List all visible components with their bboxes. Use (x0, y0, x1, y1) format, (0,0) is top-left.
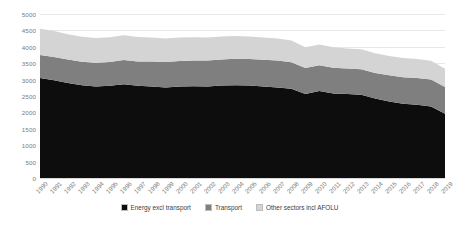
legend-label: Energy excl transport (131, 204, 191, 211)
x-axis-tick-label: 2017 (411, 180, 426, 195)
x-axis-tick-label: 2015 (383, 180, 398, 195)
x-axis-tick-label: 2010 (314, 180, 329, 195)
x-axis-tick-label: 2001 (188, 180, 203, 195)
x-axis-tick-label: 2011 (328, 180, 342, 194)
x-axis-tick-label: 2014 (369, 180, 384, 195)
x-axis-tick-label: 1992 (62, 180, 77, 195)
series-layer (40, 14, 445, 178)
legend-label: Transport (215, 204, 242, 211)
y-axis: 0500100015002000250030003500400045005000 (0, 0, 40, 192)
y-axis-tick-label: 2000 (22, 109, 36, 116)
y-axis-tick-label: 4500 (22, 27, 36, 34)
legend-swatch-icon (256, 204, 263, 211)
y-axis-tick-label: 1000 (22, 142, 36, 149)
legend-swatch-icon (205, 204, 212, 211)
chart-legend: Energy excl transportTransportOther sect… (0, 204, 459, 211)
x-axis-tick-label: 2004 (230, 180, 245, 195)
legend-item[interactable]: Energy excl transport (121, 204, 191, 211)
x-axis-tick-label: 1994 (90, 180, 105, 195)
legend-item[interactable]: Transport (205, 204, 242, 211)
y-axis-tick-label: 5000 (22, 11, 36, 18)
gridline (40, 178, 445, 179)
x-axis-tick-label: 2003 (216, 180, 231, 195)
legend-label: Other sectors incl AFOLU (266, 204, 338, 211)
y-axis-tick-label: 500 (25, 158, 36, 165)
x-axis-tick-label: 2002 (202, 180, 217, 195)
y-axis-tick-label: 4000 (22, 43, 36, 50)
x-axis-tick-label: 2005 (244, 180, 259, 195)
x-axis-tick-label: 2013 (355, 180, 370, 195)
y-axis-tick-label: 1500 (22, 125, 36, 132)
x-axis-tick-label: 2007 (272, 180, 287, 195)
legend-item[interactable]: Other sectors incl AFOLU (256, 204, 338, 211)
x-axis-tick-label: 1993 (76, 180, 91, 195)
x-axis-tick-label: 2000 (174, 180, 189, 195)
x-axis-tick-label: 1991 (48, 180, 63, 195)
y-axis-tick-label: 2500 (22, 93, 36, 100)
stacked-area-chart: 0500100015002000250030003500400045005000… (0, 0, 459, 225)
x-axis-tick-label: 1995 (104, 180, 119, 195)
x-axis-tick-label: 2016 (397, 180, 412, 195)
y-axis-tick-label: 3500 (22, 60, 36, 67)
x-axis-tick-label: 1999 (160, 180, 175, 195)
y-axis-tick-label: 3000 (22, 76, 36, 83)
x-axis-tick-label: 2018 (425, 180, 440, 195)
plot-area (40, 14, 445, 178)
x-axis-tick-label: 1997 (132, 180, 147, 195)
x-axis-tick-label: 2009 (300, 180, 315, 195)
x-axis-tick-label: 2006 (258, 180, 273, 195)
x-axis-tick-label: 2019 (439, 180, 454, 195)
x-axis-tick-label: 2012 (342, 180, 357, 195)
x-axis-tick-label: 1998 (146, 180, 161, 195)
x-axis-tick-label: 2008 (286, 180, 301, 195)
y-axis-tick-label: 0 (32, 175, 36, 182)
x-axis-tick-label: 1996 (118, 180, 133, 195)
legend-swatch-icon (121, 204, 128, 211)
